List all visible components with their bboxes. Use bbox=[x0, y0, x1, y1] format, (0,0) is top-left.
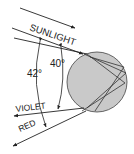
angle-42-label: 42° bbox=[27, 68, 42, 79]
sunlight-label: SUNLIGHT bbox=[28, 21, 77, 47]
violet-label: VIOLET bbox=[15, 100, 46, 114]
red-label: RED bbox=[17, 117, 37, 133]
angle-40-label: 40° bbox=[50, 58, 65, 69]
rainbow-diagram: SUNLIGHT 42° 40° VIOLET RED bbox=[0, 0, 134, 154]
arc-40 bbox=[58, 47, 63, 109]
angle-arcs bbox=[36, 41, 63, 127]
arc-42 bbox=[36, 41, 46, 127]
raindrop-circle bbox=[67, 52, 127, 112]
